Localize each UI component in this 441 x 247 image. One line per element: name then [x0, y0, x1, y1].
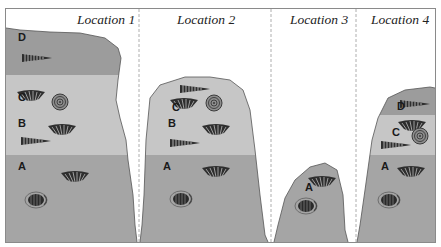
location-1-layer-a-label: A — [18, 160, 26, 172]
location-1-title: Location 1 — [77, 12, 135, 28]
location-1-layer-d-label: D — [18, 31, 26, 43]
location-4-layer-a-label: A — [381, 160, 389, 172]
location-1-layer-c-label: C — [18, 91, 26, 103]
location-2-layer-b-label: B — [168, 117, 176, 129]
location-1-layer-b-label: B — [18, 117, 26, 129]
location-2-title: Location 2 — [177, 12, 235, 28]
location-3-layer-a-label: A — [305, 181, 313, 193]
location-3-strata — [270, 150, 360, 247]
location-4-strata — [355, 0, 441, 247]
location-2-strata — [138, 0, 273, 247]
location-4-layer-d-label: D — [397, 100, 405, 112]
location-2-layer-a-label: A — [163, 160, 171, 172]
location-4-title: Location 4 — [371, 12, 429, 28]
layer-a — [270, 150, 360, 247]
location-4-layer-c-label: C — [392, 126, 400, 138]
strata-diagram: Location 1 Location 2 Location 3 Locatio… — [0, 0, 441, 247]
strata-svg — [0, 0, 441, 247]
location-3-title: Location 3 — [290, 12, 348, 28]
location-2-layer-c-label: C — [172, 101, 180, 113]
